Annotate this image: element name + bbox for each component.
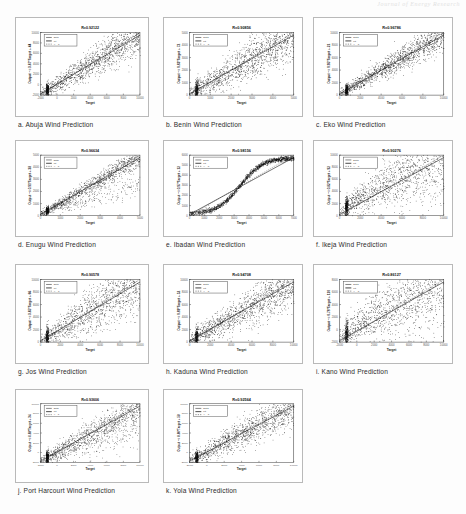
regression-plot-c[interactable]: 0200040006000800010000020004000600080001… xyxy=(313,17,453,117)
regression-plot-h[interactable]: 0200040006000800010000020004000600080001… xyxy=(163,264,303,364)
svg-text:Y = T: Y = T xyxy=(353,290,359,293)
svg-text:4000: 4000 xyxy=(33,315,39,319)
regression-plot-i[interactable]: -20000200040006000800010000-200002000400… xyxy=(313,264,453,364)
regression-plot-k[interactable]: -20000200040006000800010000-200002000400… xyxy=(163,389,303,483)
svg-text:R=0.90578: R=0.90578 xyxy=(81,273,99,277)
plot-canvas-i: -20000200040006000800010000-200002000400… xyxy=(317,268,449,360)
panel-caption-f: f. Ikeja Wind Prediction xyxy=(316,241,453,248)
svg-text:6000: 6000 xyxy=(249,343,256,347)
svg-text:10000: 10000 xyxy=(32,31,40,35)
svg-text:Output ~= 0.95*Target + 21: Output ~= 0.95*Target + 21 xyxy=(327,44,331,84)
svg-text:4000: 4000 xyxy=(33,431,39,435)
svg-text:6000: 6000 xyxy=(33,303,39,307)
svg-text:10000: 10000 xyxy=(180,402,188,406)
svg-text:8000: 8000 xyxy=(273,463,280,467)
regression-plot-f[interactable]: 0200040006000800010000020004000600080001… xyxy=(313,140,453,237)
svg-text:2000: 2000 xyxy=(33,72,39,76)
svg-text:2000: 2000 xyxy=(33,189,39,193)
regression-plot-e[interactable]: 0100020003000400050006000700001000200030… xyxy=(163,140,303,237)
svg-text:2000: 2000 xyxy=(371,343,378,347)
svg-text:6000: 6000 xyxy=(97,343,103,347)
regression-plot-b[interactable]: 0100020003000400050000100020003000400050… xyxy=(163,17,303,117)
svg-text:Y = T: Y = T xyxy=(54,165,60,168)
svg-text:2000: 2000 xyxy=(182,328,189,332)
svg-text:Output ~= 0.85*Target + 66: Output ~= 0.85*Target + 66 xyxy=(28,291,32,331)
svg-text:5000: 5000 xyxy=(137,216,143,220)
svg-text:Y = T: Y = T xyxy=(203,414,210,417)
svg-text:5000: 5000 xyxy=(261,216,268,220)
svg-text:0: 0 xyxy=(206,463,208,467)
svg-text:6000: 6000 xyxy=(332,177,339,181)
svg-text:4000: 4000 xyxy=(182,43,189,47)
figure-page: Journal of Energy Research -200002000400… xyxy=(0,0,466,514)
svg-text:R=0.90856: R=0.90856 xyxy=(232,26,251,30)
svg-text:2000: 2000 xyxy=(182,68,189,72)
regression-plot-g[interactable]: 0200040006000800010000020004000600080001… xyxy=(15,264,149,364)
panel-caption-d: d. Enugu Wind Prediction xyxy=(18,241,149,248)
svg-text:4000: 4000 xyxy=(182,431,189,435)
svg-text:2000: 2000 xyxy=(182,441,189,445)
svg-text:8000: 8000 xyxy=(420,96,427,100)
svg-text:0: 0 xyxy=(56,96,58,100)
svg-text:6000: 6000 xyxy=(276,216,283,220)
svg-text:6000: 6000 xyxy=(399,96,406,100)
svg-text:6000: 6000 xyxy=(256,463,263,467)
svg-text:4000: 4000 xyxy=(246,216,253,220)
plot-canvas-b: 0100020003000400050000100020003000400050… xyxy=(167,21,299,113)
svg-text:Target: Target xyxy=(237,221,248,225)
figure-panel-kaduna: 0200040006000800010000020004000600080001… xyxy=(163,264,303,375)
svg-text:Y = T: Y = T xyxy=(203,165,209,168)
svg-text:0: 0 xyxy=(37,451,39,455)
svg-text:-2000: -2000 xyxy=(32,93,39,97)
svg-text:8000: 8000 xyxy=(420,216,427,220)
svg-text:0: 0 xyxy=(336,328,338,332)
svg-text:0: 0 xyxy=(186,451,188,455)
svg-text:6000: 6000 xyxy=(104,96,110,100)
svg-text:3000: 3000 xyxy=(182,56,189,60)
svg-text:Target: Target xyxy=(86,467,95,471)
svg-text:10000: 10000 xyxy=(32,402,40,406)
svg-text:3000: 3000 xyxy=(182,183,189,187)
svg-text:3000: 3000 xyxy=(97,216,103,220)
svg-text:8000: 8000 xyxy=(33,290,39,294)
svg-text:2000: 2000 xyxy=(216,216,223,220)
svg-text:10000: 10000 xyxy=(136,343,144,347)
running-head: Journal of Energy Research xyxy=(377,1,460,7)
svg-text:2000: 2000 xyxy=(33,441,39,445)
svg-text:8000: 8000 xyxy=(332,278,339,282)
svg-text:2000: 2000 xyxy=(207,343,214,347)
plot-canvas-e: 0100020003000400050006000700001000200030… xyxy=(167,144,299,233)
svg-text:6000: 6000 xyxy=(406,343,413,347)
svg-text:Target: Target xyxy=(86,348,96,352)
svg-text:8000: 8000 xyxy=(332,43,339,47)
figure-panel-enugu: 0100020003000400050000100020003000400050… xyxy=(15,140,149,248)
svg-text:8000: 8000 xyxy=(117,343,123,347)
svg-text:4000: 4000 xyxy=(87,96,93,100)
svg-text:2000: 2000 xyxy=(332,202,339,206)
svg-text:2000: 2000 xyxy=(332,81,339,85)
panel-caption-b: b. Benin Wind Prediction xyxy=(166,121,303,128)
svg-text:6000: 6000 xyxy=(104,463,110,467)
figure-panel-ibadan: 0100020003000400050006000700001000200030… xyxy=(163,140,303,248)
svg-text:4000: 4000 xyxy=(228,343,235,347)
svg-text:0: 0 xyxy=(56,463,58,467)
svg-text:10000: 10000 xyxy=(136,463,144,467)
svg-text:6000: 6000 xyxy=(33,421,39,425)
regression-plot-j[interactable]: -20000200040006000800010000-200002000400… xyxy=(15,389,149,483)
panel-caption-i: i. Kano Wind Prediction xyxy=(316,368,453,375)
svg-text:1000: 1000 xyxy=(182,81,189,85)
panel-caption-k: k. Yola Wind Prediction xyxy=(166,487,303,494)
svg-text:5000: 5000 xyxy=(33,153,39,157)
svg-text:R=0.96786: R=0.96786 xyxy=(382,26,401,30)
svg-text:4000: 4000 xyxy=(378,216,385,220)
svg-text:Output ~= 0.89*Target + 52: Output ~= 0.89*Target + 52 xyxy=(177,291,181,331)
svg-text:R=0.92564: R=0.92564 xyxy=(232,398,251,402)
panel-caption-c: c. Eko Wind Prediction xyxy=(316,121,453,128)
svg-text:8000: 8000 xyxy=(120,463,126,467)
svg-text:1000: 1000 xyxy=(182,204,189,208)
plot-canvas-a: -20000200040006000800010000-200002000400… xyxy=(19,21,145,113)
figure-panel-yola: -20000200040006000800010000-200002000400… xyxy=(163,389,303,494)
regression-plot-a[interactable]: -20000200040006000800010000-200002000400… xyxy=(15,17,149,117)
regression-plot-d[interactable]: 0100020003000400050000100020003000400050… xyxy=(15,140,149,237)
svg-text:4000: 4000 xyxy=(182,173,189,177)
